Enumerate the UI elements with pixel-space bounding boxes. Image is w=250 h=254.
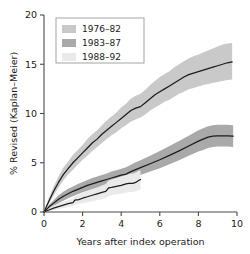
x-tick-label: 4 <box>118 218 124 229</box>
legend-label-0: 1976–82 <box>82 24 121 34</box>
legend: 1976–821983–871988–92 <box>56 18 144 63</box>
x-tick-label: 8 <box>195 218 201 229</box>
x-tick-label: 2 <box>80 218 86 229</box>
y-tick-label: 10 <box>25 108 37 119</box>
chart-canvas: 0246810 05101520 Years after index opera… <box>0 0 250 254</box>
y-tick-label: 20 <box>25 9 37 20</box>
confidence-bands-layer <box>44 43 233 212</box>
legend-swatch-0 <box>62 25 76 33</box>
x-axis-ticks: 0246810 <box>41 212 243 229</box>
y-axis-title: % Revised (Kaplan–Meier) <box>8 52 19 175</box>
x-tick-label: 6 <box>157 218 163 229</box>
legend-label-1: 1983–87 <box>82 38 121 48</box>
y-axis-ticks: 05101520 <box>25 9 44 217</box>
legend-swatch-2 <box>62 53 76 61</box>
x-axis-title: Years after index operation <box>75 236 204 247</box>
x-tick-label: 0 <box>41 218 47 229</box>
kaplan-meier-chart: 0246810 05101520 Years after index opera… <box>0 0 250 254</box>
legend-items: 1976–821983–871988–92 <box>62 24 121 62</box>
confidence-band-2 <box>44 170 141 212</box>
y-tick-label: 0 <box>31 206 37 217</box>
legend-label-2: 1988–92 <box>82 52 121 62</box>
x-tick-label: 10 <box>231 218 243 229</box>
y-tick-label: 15 <box>25 59 37 70</box>
legend-swatch-1 <box>62 39 76 47</box>
y-tick-label: 5 <box>31 157 37 168</box>
